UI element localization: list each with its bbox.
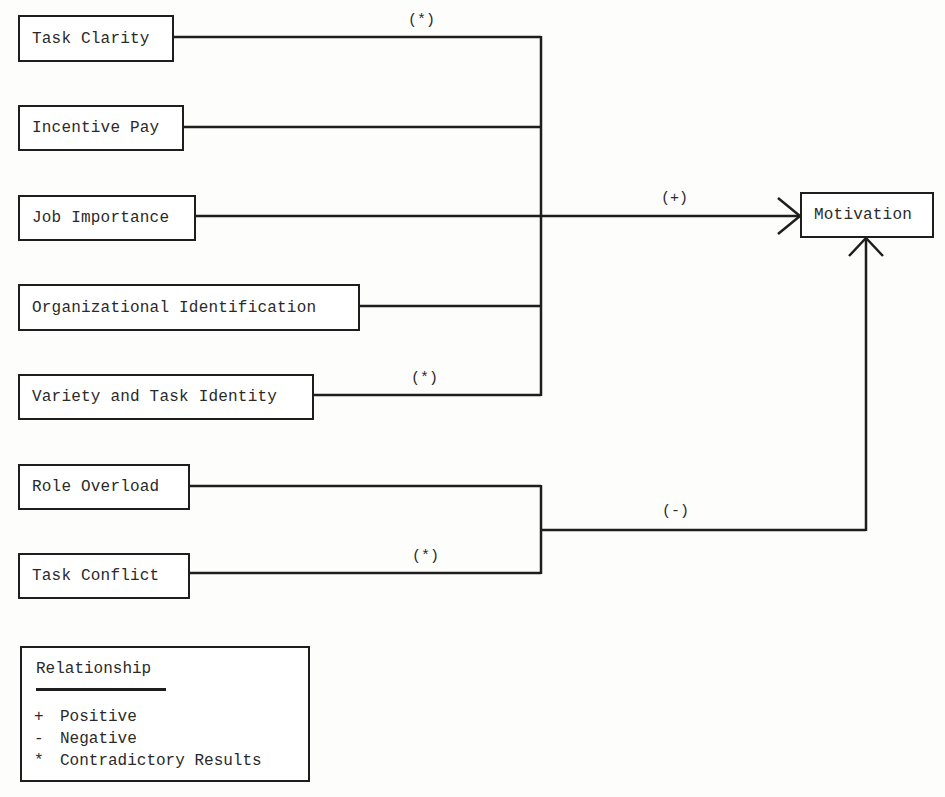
- legend-item-label: Positive: [60, 708, 137, 726]
- factor-task-clarity: Task Clarity: [18, 15, 174, 62]
- factor-label: Organizational Identification: [32, 299, 316, 317]
- legend-item-label: Negative: [60, 730, 137, 748]
- factor-incentive-pay: Incentive Pay: [18, 105, 184, 151]
- factor-task-conflict: Task Conflict: [18, 553, 190, 599]
- edge-label-task-conflict: (*): [412, 548, 439, 565]
- factor-role-overload: Role Overload: [18, 464, 190, 510]
- edge-label-negative: (-): [662, 503, 689, 520]
- legend-title-underline: [36, 688, 166, 691]
- plus-symbol: +: [34, 708, 60, 726]
- factor-label: Role Overload: [32, 478, 159, 496]
- legend: Relationship +Positive -Negative *Contra…: [20, 646, 310, 782]
- legend-title: Relationship: [36, 660, 151, 678]
- factor-label: Task Clarity: [32, 30, 150, 48]
- motivation-diagram: Task Clarity Incentive Pay Job Importanc…: [0, 0, 945, 797]
- target-motivation: Motivation: [800, 192, 934, 238]
- factor-organizational-identification: Organizational Identification: [18, 284, 360, 331]
- factor-variety-task-identity: Variety and Task Identity: [18, 374, 314, 420]
- legend-item-positive: +Positive: [34, 708, 137, 726]
- legend-item-negative: -Negative: [34, 730, 137, 748]
- minus-symbol: -: [34, 730, 60, 748]
- edge-label-positive: (+): [661, 190, 688, 207]
- factor-label: Variety and Task Identity: [32, 388, 277, 406]
- edge-label-variety: (*): [411, 370, 438, 387]
- factor-label: Job Importance: [32, 209, 169, 227]
- legend-item-label: Contradictory Results: [60, 752, 262, 770]
- factor-label: Task Conflict: [32, 567, 159, 585]
- target-label: Motivation: [814, 206, 912, 224]
- edge-label-task-clarity: (*): [408, 12, 435, 29]
- factor-job-importance: Job Importance: [18, 195, 196, 241]
- asterisk-symbol: *: [34, 752, 60, 770]
- legend-item-contradictory: *Contradictory Results: [34, 752, 262, 770]
- factor-label: Incentive Pay: [32, 119, 159, 137]
